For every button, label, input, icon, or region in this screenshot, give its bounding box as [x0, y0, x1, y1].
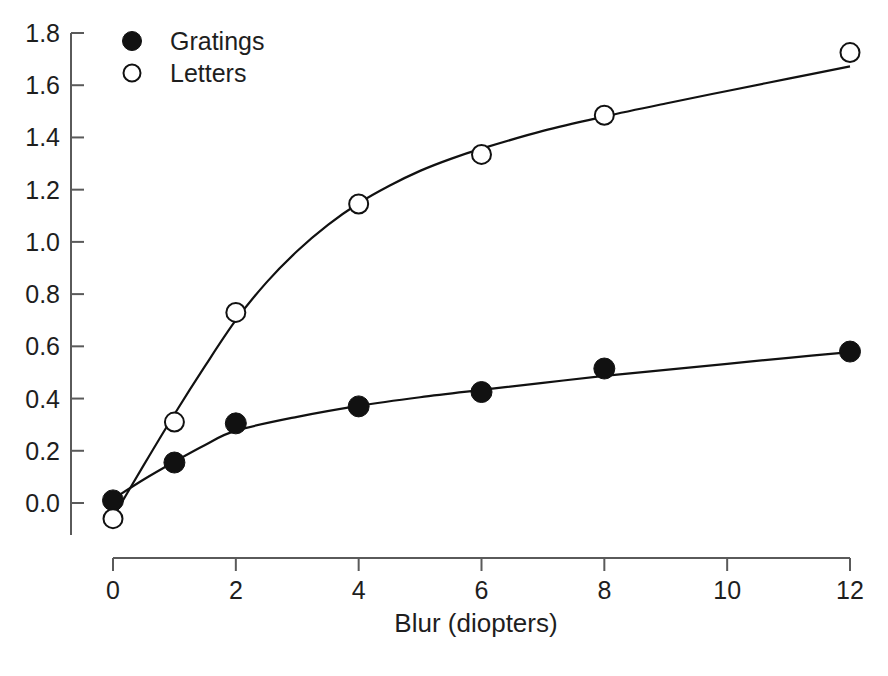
data-point-letters — [841, 43, 860, 62]
data-point-gratings — [840, 341, 861, 362]
fit-curves — [113, 66, 850, 517]
y-tick-label: 0.8 — [0, 280, 60, 309]
data-point-letters — [226, 303, 245, 322]
data-point-letters — [165, 413, 184, 432]
data-point-letters — [472, 145, 491, 164]
x-tick-label: 6 — [475, 576, 489, 605]
data-point-letters — [595, 106, 614, 125]
data-point-gratings — [471, 382, 492, 403]
data-point-gratings — [348, 396, 369, 417]
data-point-gratings — [225, 413, 246, 434]
fit-curve-letters — [113, 66, 850, 517]
data-points — [103, 43, 861, 528]
x-tick-label: 0 — [106, 576, 120, 605]
legend-marker-gratings — [123, 32, 142, 51]
y-tick-label: 1.4 — [0, 123, 60, 152]
y-tick-label: 1.0 — [0, 227, 60, 256]
x-axis-title: Blur (diopters) — [394, 608, 557, 639]
y-tick-label: 0.0 — [0, 489, 60, 518]
x-tick-label: 8 — [597, 576, 611, 605]
y-tick-label: 0.4 — [0, 384, 60, 413]
axis-lines — [71, 33, 850, 571]
x-tick-label: 2 — [229, 576, 243, 605]
y-tick-label: 0.6 — [0, 332, 60, 361]
scatter-chart-figure: 0.00.20.40.60.81.01.21.41.61.8 024681012… — [0, 0, 888, 676]
x-tick-label: 10 — [713, 576, 741, 605]
data-point-gratings — [594, 358, 615, 379]
y-tick-label: 1.6 — [0, 71, 60, 100]
legend-marker-letters — [124, 65, 141, 82]
plot-canvas — [0, 0, 888, 676]
data-point-letters — [104, 509, 123, 528]
x-tick-label: 4 — [352, 576, 366, 605]
y-tick-label: 1.8 — [0, 19, 60, 48]
y-tick-label: 0.2 — [0, 436, 60, 465]
data-point-gratings — [103, 490, 124, 511]
data-point-gratings — [164, 452, 185, 473]
legend-label-gratings: Gratings — [170, 27, 264, 56]
y-tick-label: 1.2 — [0, 175, 60, 204]
fit-curve-gratings — [113, 352, 850, 499]
legend-markers — [123, 32, 142, 82]
legend-label-letters: Letters — [170, 59, 246, 88]
data-point-letters — [349, 195, 368, 214]
x-tick-label: 12 — [836, 576, 864, 605]
